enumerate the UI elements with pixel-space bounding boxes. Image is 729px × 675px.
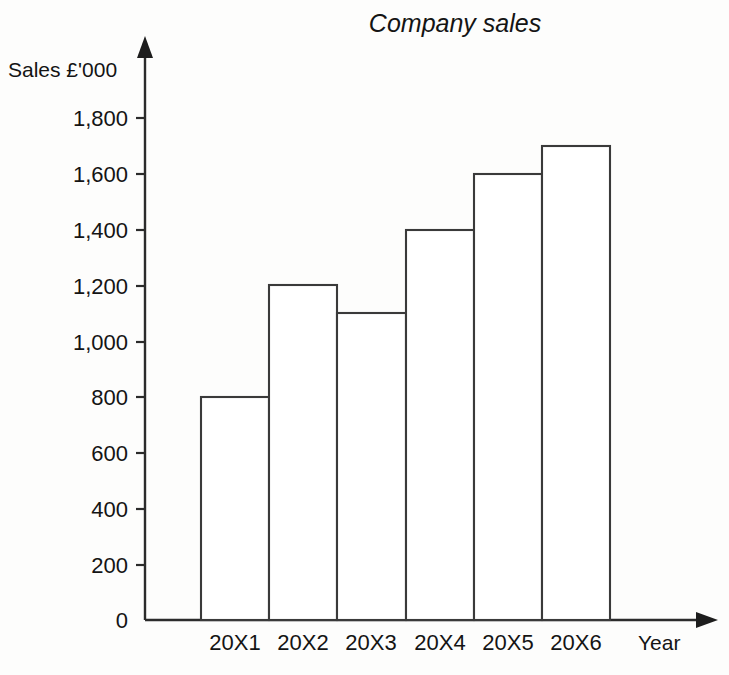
- y-tick-label: 600: [91, 441, 128, 466]
- bar-20X3: [337, 313, 406, 620]
- y-tick-label: 1,200: [73, 274, 128, 299]
- y-tick-label: 1,400: [73, 218, 128, 243]
- x-tick-label-20X1: 20X1: [209, 630, 260, 655]
- x-tick-label-20X2: 20X2: [277, 630, 328, 655]
- x-axis-label: Year: [638, 631, 680, 654]
- bars-group: [201, 146, 610, 620]
- y-axis-ticks: 1,800 1,600 1,400 1,200 1,000 800 600 40…: [73, 106, 145, 633]
- x-tick-label-20X4: 20X4: [414, 630, 465, 655]
- y-tick-label: 800: [91, 385, 128, 410]
- y-tick-label: 1,600: [73, 162, 128, 187]
- x-tick-label-20X6: 20X6: [550, 630, 601, 655]
- bar-20X5: [474, 174, 542, 620]
- arrow-right-icon: [696, 612, 718, 628]
- bar-20X2: [269, 285, 337, 620]
- y-tick-label: 1,800: [73, 106, 128, 131]
- x-tick-label-20X5: 20X5: [482, 630, 533, 655]
- y-tick-label: 1,000: [73, 330, 128, 355]
- company-sales-bar-chart: Company sales Sales £'000 1,800 1,600 1,…: [0, 0, 729, 675]
- y-tick-label: 200: [91, 553, 128, 578]
- bar-20X1: [201, 397, 269, 620]
- x-axis-ticks: 20X1 20X2 20X3 20X4 20X5 20X6: [209, 630, 601, 655]
- y-axis-label: Sales £'000: [8, 58, 117, 81]
- chart-container: Company sales Sales £'000 1,800 1,600 1,…: [0, 0, 729, 675]
- x-tick-label-20X3: 20X3: [345, 630, 396, 655]
- chart-title: Company sales: [369, 9, 541, 37]
- y-tick-label: 0: [116, 608, 128, 633]
- bar-20X4: [406, 230, 474, 620]
- arrow-up-icon: [137, 36, 153, 58]
- y-tick-label: 400: [91, 497, 128, 522]
- bar-20X6: [542, 146, 610, 620]
